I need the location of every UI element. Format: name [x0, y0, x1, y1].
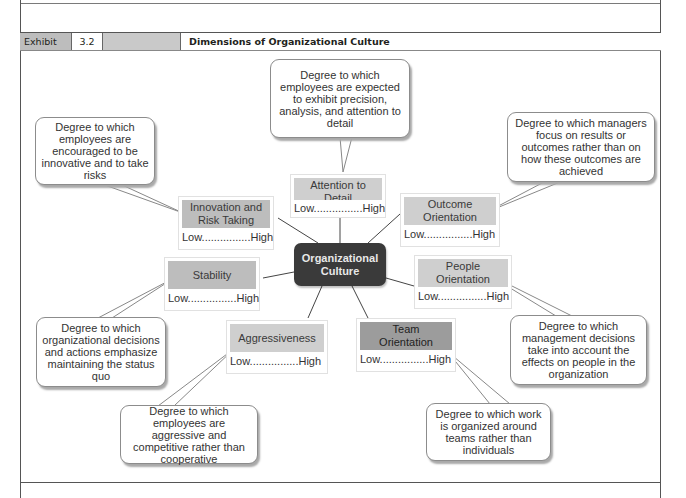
description-bubble-aggressiveness: Degree to which employees are aggressive…	[120, 405, 258, 464]
low-high-scale: Low................High	[230, 352, 324, 367]
low-high-scale: Low................High	[168, 289, 256, 304]
description-text: Degree to which managers focus on result…	[512, 117, 650, 177]
dimension-name: Outcome Orientation	[404, 197, 496, 225]
dimension-aggressiveness: Aggressiveness Low................High	[226, 320, 328, 374]
dimension-attention-scale: Low................High	[290, 200, 386, 218]
center-label-line2: Culture	[302, 265, 378, 278]
description-bubble-attention: Degree to which employees are expected t…	[270, 59, 410, 138]
description-text: Degree to which organizational decisions…	[41, 322, 161, 382]
dimension-outcome-orientation: Outcome Orientation Low................H…	[400, 193, 500, 247]
low-high-scale: Low................High	[360, 350, 452, 365]
dimension-name: Aggressiveness	[230, 324, 324, 352]
dimension-name: People Orientation	[418, 259, 508, 287]
description-text: Degree to which employees are aggressive…	[125, 405, 253, 465]
low-high-scale: Low................High	[294, 200, 382, 214]
description-text: Degree to which work is organized around…	[431, 408, 546, 456]
description-bubble-stability: Degree to which organizational decisions…	[36, 317, 166, 387]
dimension-stability: Stability Low................High	[164, 257, 260, 311]
dimension-name: Innovation and Risk Taking	[182, 200, 270, 228]
description-text: Degree to which employees are encouraged…	[40, 121, 150, 181]
description-bubble-outcome: Degree to which managers focus on result…	[507, 112, 655, 182]
dimension-name: Team Orientation	[360, 322, 452, 350]
description-bubble-team: Degree to which work is organized around…	[426, 403, 551, 461]
center-label-line1: Organizational	[302, 252, 378, 265]
description-bubble-people: Degree to which management decisions tak…	[510, 315, 647, 385]
dimension-name: Stability	[168, 261, 256, 289]
dimension-innovation-risk-taking: Innovation and Risk Taking Low..........…	[178, 196, 274, 250]
description-bubble-innovation: Degree to which employees are encouraged…	[35, 117, 155, 185]
low-high-scale: Low................High	[182, 228, 270, 243]
dimension-team-orientation: Team Orientation Low................High	[356, 318, 456, 372]
description-text: Degree to which employees are expected t…	[275, 69, 405, 129]
low-high-scale: Low................High	[418, 287, 508, 302]
dimension-people-orientation: People Orientation Low................Hi…	[414, 255, 512, 309]
low-high-scale: Low................High	[404, 225, 496, 240]
center-node-organizational-culture: Organizational Culture	[294, 243, 386, 286]
description-text: Degree to which management decisions tak…	[515, 320, 642, 380]
